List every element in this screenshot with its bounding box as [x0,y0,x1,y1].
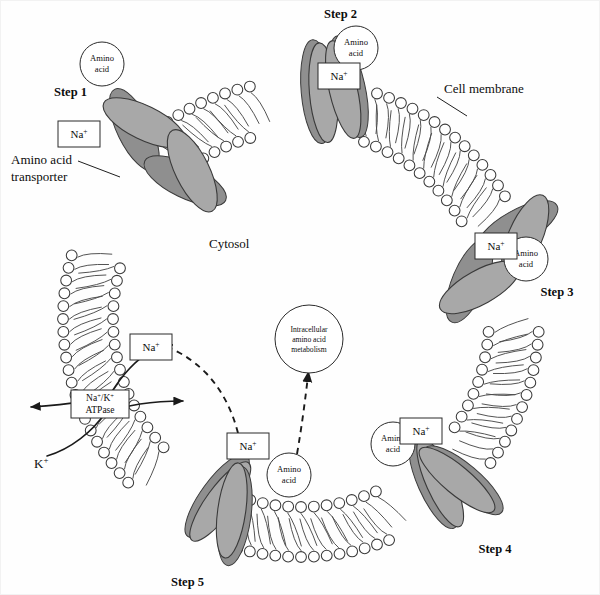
lipid-tail-inner [125,431,142,462]
lipid-tail-outer [75,264,109,269]
lipid-tail-outer [300,519,314,550]
lipid-head-outer [512,414,523,425]
lipid-tail-inner [402,117,406,153]
lipid-tail-outer [124,439,141,469]
lipid-head-outer [61,275,72,286]
sodium-box-pump[interactable]: Na+ [130,334,172,360]
lipid-tail-inner [135,442,150,475]
lipid-head-outer [257,548,268,559]
lipid-tail-inner [79,345,109,365]
amino-acid-line2: acid [95,64,110,74]
lipid-tail-outer [72,275,105,282]
lipid-tail-outer [251,93,269,122]
lipid-head-inner [118,377,129,388]
lipid-head-outer [208,93,219,104]
sodium-box-step5[interactable]: Na+ [227,433,269,459]
lipid-tail-inner [495,319,528,333]
lipid-tail-outer [117,430,135,459]
lipid-head-outer [506,425,517,436]
lipid-head-outer [372,539,383,550]
sodium-recycle-arrow [166,347,238,433]
potassium-label: K+ [34,455,48,471]
atpase-line1: Na+/K+ [86,392,114,404]
sodium-box-step1[interactable]: Na+ [58,121,100,147]
lipid-head-outer [283,551,294,562]
lipid-head-outer [528,365,539,376]
sodium-box-step4[interactable]: Na+ [400,418,442,444]
lipid-head-outer [196,98,207,109]
lipid-head-outer [429,117,440,128]
amino-acid-bubble-cytosol[interactable]: Amino acid [267,453,311,497]
lipid-head-outer [63,262,74,273]
lipid-head-inner [468,389,479,400]
lipid-head-inner [112,352,123,363]
lipid-head-outer [92,436,103,447]
lipid-head-inner [371,486,382,497]
lipid-tail-outer [477,414,511,418]
step-1-label: Step 1 [54,85,87,99]
lipid-tail-inner [314,513,332,544]
metabolism-bubble[interactable]: Intracellular amino acid metabolism [275,305,343,373]
lipid-tail-outer [109,421,129,449]
lipid-tail-inner [443,153,456,186]
lipid-head-outer [525,377,536,388]
lipid-head-outer [485,170,496,181]
lipid-head-inner [456,411,467,422]
diagram-canvas: Amino acid Amino acid Amino acid Amino a… [1,1,600,595]
lipid-tail-outer [467,179,485,208]
lipid-tail-outer [493,369,527,374]
lipid-head-outer [418,110,429,121]
lipid-head-outer [114,468,125,479]
sodium-box-step2[interactable]: Na+ [318,63,360,89]
lipid-tail-inner [341,509,363,537]
lipid-head-outer [532,339,543,350]
lipid-tail-outer [473,189,493,217]
lipid-head-outer [184,103,195,114]
lipid-head-inner [414,168,425,179]
lipid-head-outer [359,543,370,554]
lipid-tail-inner [452,164,467,197]
lipid-head-inner [108,314,119,325]
lipid-head-outer [468,150,479,161]
lipid-head-inner [449,205,460,216]
lipid-head-outer [99,447,110,458]
lipid-tail-outer [405,114,410,148]
lipid-head-inner [308,501,319,512]
lipid-head-outer [334,548,345,559]
amino-acid-line2: acid [519,259,534,269]
lipid-tail-outer [482,404,516,407]
lipid-head-inner [209,147,220,158]
lipid-tail-outer [386,104,389,138]
cell-membrane-leader [437,97,467,116]
lipid-head-inner [346,495,357,506]
lipid-head-outer [220,88,231,99]
free-amino-acid-extracellular[interactable]: Amino acid [80,42,124,86]
lipid-tail-inner [327,512,347,542]
lipid-head-outer [485,458,496,469]
lipid-head-inner [109,288,120,299]
lipid-tail-inner [225,105,249,132]
amino-acid-line2: acid [386,444,401,454]
lipid-head-outer [493,447,504,458]
sodium-box-step3[interactable]: Na+ [475,233,517,259]
lipid-head-outer [459,141,470,152]
lipid-head-inner [433,185,444,196]
lipid-head-inner [115,263,126,274]
lipid-head-inner [480,352,491,363]
step-2-label: Step 2 [324,7,357,21]
lipid-head-inner [257,498,268,509]
lipid-head-outer [244,81,255,92]
lipid-head-outer [384,535,395,546]
lipid-head-inner [334,498,345,509]
lipid-tail-outer [439,142,451,174]
lipid-tail-inner [74,306,107,320]
lipid-head-inner [441,195,452,206]
lipid-tail-inner [474,407,510,409]
atpase-label-box[interactable]: Na+/K+ ATPase [71,390,129,418]
lipid-tail-outer [423,127,431,160]
amino-acid-line1: Amino [277,464,301,474]
lipid-head-outer [372,88,383,99]
lipid-head-inner [296,502,307,513]
cytosol-label: Cytosol [209,236,250,251]
lipid-head-inner [108,326,119,337]
